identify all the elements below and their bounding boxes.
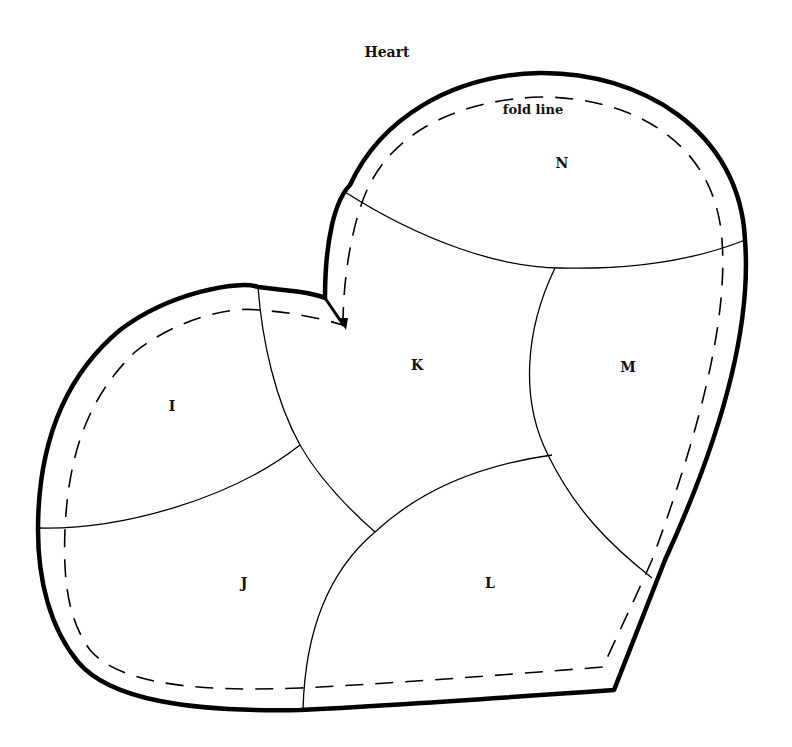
divider-n [345, 192, 745, 268]
divider-k-i [258, 287, 375, 532]
seam-allowance-line [65, 97, 723, 689]
fold-line-label: fold line [503, 102, 563, 117]
piece-label-i: I [169, 398, 176, 414]
piece-label-n: N [556, 155, 569, 171]
divider-j-l [303, 532, 375, 710]
piece-label-l: L [485, 575, 495, 591]
divider-k-l [375, 455, 552, 532]
outer-cut-line [38, 73, 746, 710]
diagram-title: Heart [364, 44, 409, 60]
divider-i-j [38, 445, 300, 528]
piece-label-k: K [411, 357, 423, 373]
heart-pattern [0, 0, 792, 747]
piece-label-j: J [241, 575, 248, 591]
piece-label-m: M [620, 359, 636, 375]
divider-k-m [530, 268, 652, 578]
